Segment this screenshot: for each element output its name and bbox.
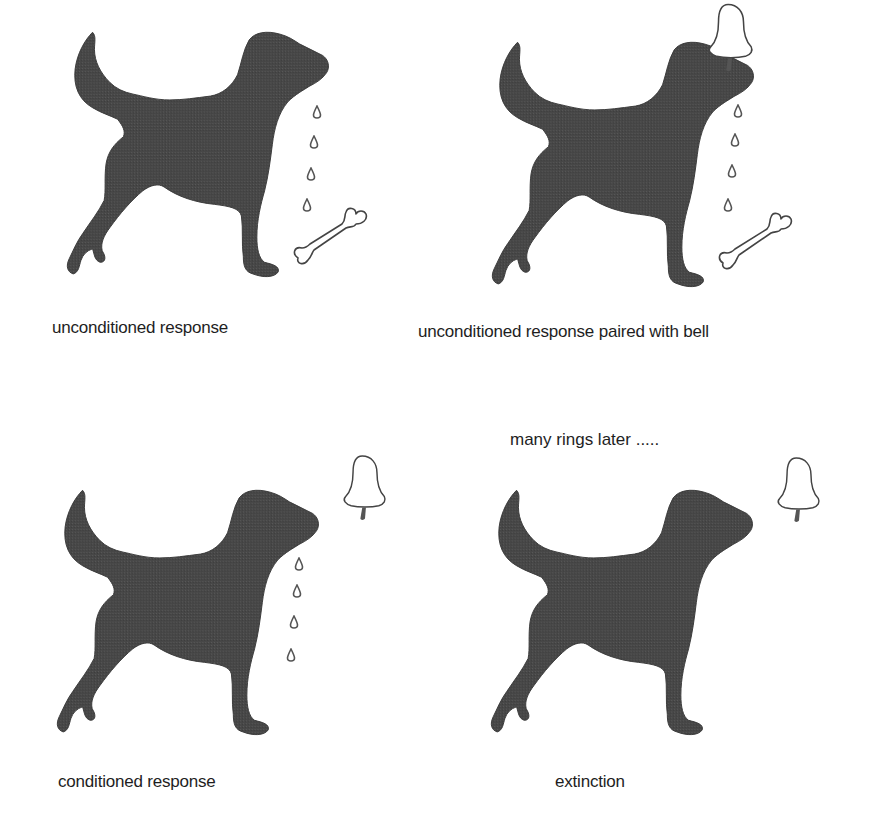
panel-conditioned-response <box>30 470 370 750</box>
saliva-drop-icon <box>312 105 322 119</box>
saliva-drop-icon <box>727 164 737 178</box>
saliva-drop-icon <box>306 167 316 181</box>
dog-silhouette <box>474 488 764 740</box>
caption-unconditioned-response: unconditioned response <box>52 318 228 338</box>
saliva-drop-icon <box>292 584 302 598</box>
bone-icon <box>290 205 370 267</box>
saliva-drop-icon <box>309 135 319 149</box>
bell-icon <box>342 454 388 528</box>
caption-extinction: extinction <box>555 772 625 792</box>
bell-icon <box>707 2 755 80</box>
bone-icon <box>715 210 795 272</box>
caption-paired-with-bell: unconditioned response paired with bell <box>418 322 709 342</box>
transition-note: many rings later ..... <box>510 430 659 450</box>
panel-paired-with-bell <box>465 0 865 300</box>
saliva-drop-icon <box>294 557 304 571</box>
saliva-drop-icon <box>733 104 743 118</box>
panel-unconditioned-response <box>40 30 380 300</box>
bell-icon <box>776 456 822 530</box>
saliva-drop-icon <box>730 133 740 147</box>
saliva-drop-icon <box>286 648 296 662</box>
saliva-drop-icon <box>289 615 299 629</box>
caption-conditioned-response: conditioned response <box>58 772 216 792</box>
dog-silhouette <box>40 488 330 740</box>
panel-extinction <box>470 450 850 750</box>
